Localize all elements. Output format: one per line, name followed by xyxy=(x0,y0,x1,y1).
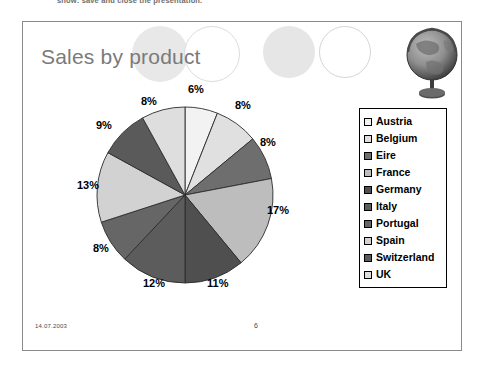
legend-swatch-icon xyxy=(364,271,372,279)
pie-label-3: 17% xyxy=(267,205,289,216)
footer-date: 14.07.2003 xyxy=(35,323,67,329)
legend-item-label: Italy xyxy=(376,201,397,212)
legend-swatch-icon xyxy=(364,169,372,177)
legend-swatch-icon xyxy=(364,237,372,245)
legend-swatch-icon xyxy=(364,203,372,211)
legend-item-label: Belgium xyxy=(376,133,417,144)
globe-image xyxy=(404,24,462,102)
chart-legend: AustriaBelgiumEireFranceGermanyItalyPort… xyxy=(359,108,447,288)
legend-swatch-icon xyxy=(364,220,372,228)
instruction-text: show: save and close the presentation. xyxy=(57,0,202,5)
decorative-circle-3 xyxy=(263,26,315,78)
pie-label-9: 8% xyxy=(141,96,157,107)
legend-item[interactable]: Eire xyxy=(364,147,443,164)
chart-container: 6% 8% 8% 17% 11% 12% 8% 13% 9% 8% Austri… xyxy=(23,94,462,316)
legend-item[interactable]: Spain xyxy=(364,232,443,249)
legend-item[interactable]: Portugal xyxy=(364,215,443,232)
legend-swatch-icon xyxy=(364,118,372,126)
legend-item[interactable]: Italy xyxy=(364,198,443,215)
page-title: Sales by product xyxy=(41,45,201,69)
legend-item[interactable]: Austria xyxy=(364,113,443,130)
footer-page-number: 6 xyxy=(254,322,258,329)
pie-label-4: 11% xyxy=(207,278,228,289)
legend-item-label: UK xyxy=(376,269,391,280)
legend-swatch-icon xyxy=(364,135,372,143)
presentation-slide: Sales by product 6% 8% 8% 17% 11% 12% 8%… xyxy=(22,21,462,351)
legend-item[interactable]: Germany xyxy=(364,181,443,198)
legend-item[interactable]: France xyxy=(364,164,443,181)
legend-item-label: Switzerland xyxy=(376,252,434,263)
legend-item[interactable]: Switzerland xyxy=(364,249,443,266)
legend-swatch-icon xyxy=(364,186,372,194)
pie-label-7: 13% xyxy=(77,180,99,191)
decorative-circle-4 xyxy=(319,26,371,78)
legend-item-label: Portugal xyxy=(376,218,419,229)
pie-label-6: 8% xyxy=(93,243,109,254)
pie-label-2: 8% xyxy=(260,137,276,148)
legend-swatch-icon xyxy=(364,152,372,160)
legend-item-label: France xyxy=(376,167,410,178)
legend-item-label: Spain xyxy=(376,235,405,246)
legend-item-label: Germany xyxy=(376,184,422,195)
pie-label-8: 9% xyxy=(96,120,112,131)
pie-label-1: 8% xyxy=(235,100,251,111)
legend-item[interactable]: Belgium xyxy=(364,130,443,147)
pie-chart: 6% 8% 8% 17% 11% 12% 8% 13% 9% 8% xyxy=(95,100,275,290)
pie-label-5: 12% xyxy=(143,278,165,289)
pie-label-0: 6% xyxy=(188,84,204,95)
pie-chart-svg xyxy=(95,100,275,290)
legend-item-label: Austria xyxy=(376,116,412,127)
legend-item-label: Eire xyxy=(376,150,396,161)
legend-swatch-icon xyxy=(364,254,372,262)
legend-item[interactable]: UK xyxy=(364,266,443,283)
